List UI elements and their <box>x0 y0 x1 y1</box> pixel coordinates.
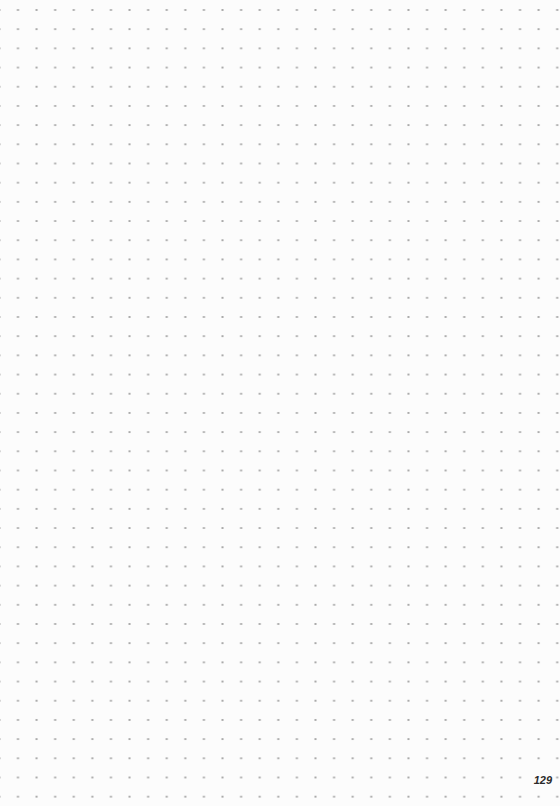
page-number: 129 <box>532 774 554 786</box>
dot-grid <box>0 0 560 806</box>
notebook-page: 129 <box>0 0 560 806</box>
